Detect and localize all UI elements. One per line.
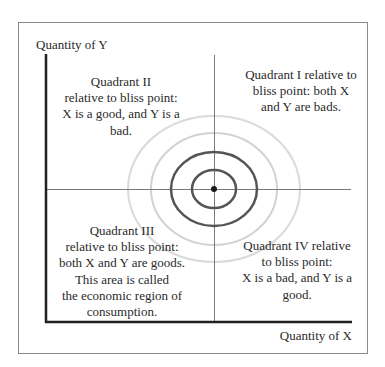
bliss-point-dot	[211, 186, 217, 192]
quadrant-1-description: Quadrant I relative to bliss point: both…	[240, 67, 362, 116]
quadrant-2-line: X is a good, and Y is a	[55, 106, 187, 122]
quadrant-2-line: relative to bliss point:	[55, 90, 187, 106]
quadrant-3-line: relative to bliss point:	[55, 239, 189, 255]
quadrant-2-description: Quadrant II relative to bliss point: X i…	[55, 74, 187, 139]
quadrant-3-line: the economic region of	[55, 288, 189, 304]
quadrant-3-line: both X and Y are goods.	[55, 255, 189, 271]
x-axis-label: Quantity of X	[280, 328, 352, 344]
quadrant-1-line: bliss point: both X	[240, 83, 362, 99]
quadrant-4-line: Quadrant IV relative	[237, 238, 357, 254]
quadrant-3-line: Quadrant III	[55, 223, 189, 239]
quadrant-4-line: to bliss point:	[237, 254, 357, 270]
quadrant-3-line: consumption.	[55, 304, 189, 320]
quadrant-4-line: X is a bad, and Y is a	[237, 270, 357, 286]
quadrant-3-line: This area is called	[55, 272, 189, 288]
y-axis-label: Quantity of Y	[36, 37, 108, 53]
quadrant-1-line: and Y are bads.	[240, 99, 362, 115]
quadrant-2-line: bad.	[55, 123, 187, 139]
quadrant-4-description: Quadrant IV relative to bliss point: X i…	[237, 238, 357, 303]
quadrant-2-line: Quadrant II	[55, 74, 187, 90]
quadrant-3-description: Quadrant III relative to bliss point: bo…	[55, 223, 189, 320]
quadrant-1-line: Quadrant I relative to	[240, 67, 362, 83]
quadrant-4-line: good.	[237, 287, 357, 303]
